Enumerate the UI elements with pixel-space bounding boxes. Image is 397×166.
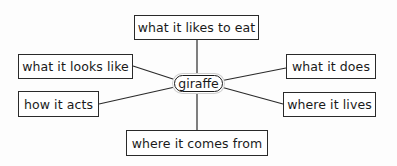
node-label: what it does [292,59,370,74]
center-node-giraffe: giraffe [174,75,223,92]
node-where-it-comes-from: where it comes from [126,130,268,156]
node-label: what it likes to eat [138,20,256,35]
center-label: giraffe [178,76,219,91]
connector-does [220,68,286,81]
node-where-it-lives: where it lives [283,92,376,117]
node-label: how it acts [24,97,93,112]
connector-lives [221,87,283,104]
node-what-it-does: what it does [286,54,376,79]
connector-looks [133,66,176,80]
node-what-it-looks-like: what it looks like [18,54,133,79]
node-what-it-likes-to-eat: what it likes to eat [134,15,259,40]
node-label: what it looks like [22,59,129,74]
node-how-it-acts: how it acts [18,91,99,117]
node-label: where it comes from [132,136,263,151]
giraffe-concept-web: what it likes to eat what it looks like … [0,0,397,166]
connector-acts [99,87,175,104]
node-label: where it lives [287,97,372,112]
